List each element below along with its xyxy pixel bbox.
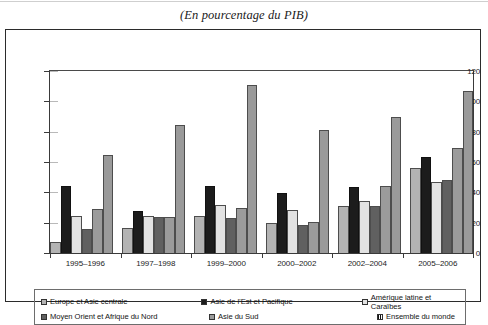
x-axis-labels: 1995–19961997–19981999–20002000–20022002… [50,259,473,268]
x-axis-label: 1999–2000 [191,259,262,268]
legend-label-europe: Europe et Asie centrale [50,297,127,306]
bar [71,216,82,253]
y-tick-mark [44,253,49,254]
bar [421,157,432,253]
legend-swatch-south-asia-icon [209,314,215,320]
bar [319,130,330,253]
x-axis-label: 2005–2006 [403,259,474,268]
bar [103,155,114,253]
bar [61,186,72,253]
bar [359,201,370,253]
legend-item-asie-de-lest-et-pacifique: Asie de l’Est et Pacifique [201,297,361,306]
legend-item-moyen-orient-et-afrique-du-nord: Moyen Orient et Afrique du Nord [41,312,209,321]
legend-row-2: Moyen Orient et Afrique du Nord Asie du … [41,309,459,324]
x-tick-mark [50,254,51,258]
bar [133,211,144,253]
bar [175,125,186,253]
bar-group [122,71,185,253]
x-axis-label: 2000–2002 [262,259,333,268]
bar-group [50,71,113,253]
x-tick-mark [121,254,122,258]
x-tick-mark [403,254,404,258]
bar-group [194,71,257,253]
legend-label-world: Ensemble du monde [386,312,455,321]
bar [277,193,288,253]
chart-subtitle: (En pourcentage du PIB) [0,8,488,23]
bar [226,218,237,253]
bar [298,225,309,253]
y-tick-mark [44,162,49,163]
x-tick-mark [332,254,333,258]
x-tick-mark [191,254,192,258]
legend-swatch-latin-america-icon [362,299,368,305]
bar [391,117,402,254]
bar-group [266,71,329,253]
legend-swatch-world-icon [377,314,383,320]
y-tick-mark [44,71,49,72]
x-tick-mark [473,254,474,258]
chart-frame: 020406080100120 1995–19961997–19981999–2… [5,29,481,302]
bar [122,228,133,253]
legend-item-ensemble-du-monde: Ensemble du monde [377,312,455,321]
bar [92,209,103,253]
bar [247,85,258,253]
bar [410,168,421,253]
x-axis-label: 2002–2004 [332,259,403,268]
y-tick-mark [44,132,49,133]
bar [50,242,61,253]
bar [452,148,463,253]
y-tick-mark [44,192,49,193]
bar [349,187,360,253]
legend-row-1: Europe et Asie centrale Asie de l’Est et… [41,294,459,309]
legend-swatch-mena-icon [41,314,47,320]
legend-item-asie-du-sud: Asie du Sud [209,312,377,321]
bar [287,210,298,253]
bar [143,216,154,253]
legend-swatch-east-asia-icon [201,299,207,305]
bar [266,223,277,253]
y-tick-mark [44,223,49,224]
bar [308,222,319,253]
bar-group [338,71,401,253]
bar [370,206,381,253]
bar [338,206,349,253]
bar [194,216,205,253]
x-axis-label: 1997–1998 [121,259,192,268]
chart-legend: Europe et Asie centrale Asie de l’Est et… [34,289,466,325]
bar [164,217,175,253]
bar-series-layer [50,71,473,253]
bar [380,186,391,253]
x-axis-label: 1995–1996 [50,259,121,268]
bar [431,182,442,253]
legend-swatch-europe-icon [41,299,47,305]
bar [154,217,165,253]
bar [463,91,474,253]
bar [215,205,226,253]
page-top-rule [0,1,488,2]
legend-label-south-asia: Asie du Sud [218,312,258,321]
legend-label-east-asia: Asie de l’Est et Pacifique [210,297,292,306]
bar [205,186,216,253]
legend-item-europe-et-asie-centrale: Europe et Asie centrale [41,297,201,306]
legend-item-amerique-latine-et-caraibes: Amérique latine et Caraïbes [362,293,459,311]
legend-label-mena: Moyen Orient et Afrique du Nord [50,312,157,321]
x-tick-mark [262,254,263,258]
y-tick-mark [44,101,49,102]
bar-group [410,71,473,253]
legend-label-latin-america: Amérique latine et Caraïbes [371,293,459,311]
bar [442,180,453,253]
bar [236,208,247,254]
bar [82,229,93,253]
